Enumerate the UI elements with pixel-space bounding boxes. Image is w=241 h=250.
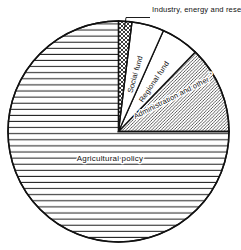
pie-chart-svg: Industry, energy and research Social fun… [0,0,241,250]
pie-chart-figure: Industry, energy and research Social fun… [0,0,241,250]
slice-label-agricultural-policy: Agricultural policy [77,154,144,163]
callout-label-industry: Industry, energy and research [152,5,241,14]
